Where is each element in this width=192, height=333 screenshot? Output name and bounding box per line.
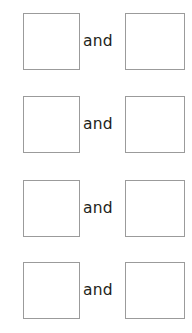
left-answer-box[interactable] [23,13,80,70]
pair-row: and [0,180,192,238]
conjunction-label: and [83,13,123,70]
pair-row: and [0,262,192,320]
left-answer-box[interactable] [23,96,80,153]
worksheet-canvas: and and and and [0,0,192,333]
right-answer-box[interactable] [125,180,185,237]
right-answer-box[interactable] [125,13,185,70]
conjunction-label: and [83,96,123,153]
left-answer-box[interactable] [23,262,80,319]
conjunction-label: and [83,180,123,237]
pair-row: and [0,13,192,71]
pair-row: and [0,96,192,154]
right-answer-box[interactable] [125,262,185,319]
left-answer-box[interactable] [23,180,80,237]
right-answer-box[interactable] [125,96,185,153]
conjunction-label: and [83,262,123,319]
